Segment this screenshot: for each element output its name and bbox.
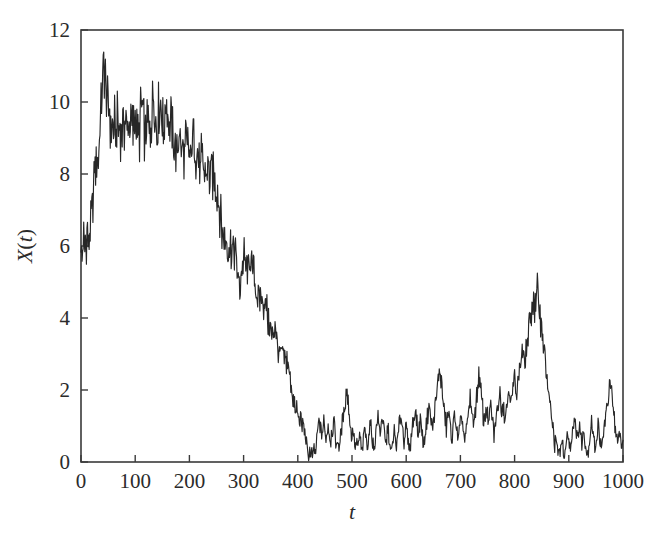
- x-tick-label: 700: [445, 469, 477, 493]
- x-tick-label: 900: [553, 469, 585, 493]
- x-tick-label: 300: [228, 469, 260, 493]
- y-axis-title: X(t): [12, 229, 37, 264]
- y-axis-tick-labels: 024681012: [49, 18, 71, 474]
- line-chart-svg: 01002003004005006007008009001000 0246810…: [0, 0, 666, 539]
- x-tick-label: 1000: [602, 469, 644, 493]
- x-tick-label: 800: [499, 469, 531, 493]
- plot-frame: [81, 30, 623, 462]
- x-axis-ticks: [81, 455, 623, 462]
- y-tick-label: 8: [60, 162, 71, 186]
- x-tick-label: 600: [390, 469, 422, 493]
- y-tick-label: 2: [60, 378, 71, 402]
- x-tick-label: 0: [76, 469, 87, 493]
- y-tick-label: 12: [49, 18, 70, 42]
- y-tick-label: 6: [60, 234, 71, 258]
- y-tick-label: 10: [49, 90, 70, 114]
- figure-container: 01002003004005006007008009001000 0246810…: [0, 0, 666, 539]
- y-tick-label: 4: [60, 306, 71, 330]
- x-axis-tick-labels: 01002003004005006007008009001000: [76, 469, 644, 493]
- svg-text:X(t): X(t): [12, 229, 37, 264]
- x-tick-label: 400: [282, 469, 314, 493]
- x-axis-title: t: [349, 499, 356, 524]
- x-tick-label: 500: [336, 469, 368, 493]
- data-series-line: [81, 52, 623, 461]
- x-tick-label: 200: [174, 469, 206, 493]
- x-tick-label: 100: [119, 469, 151, 493]
- y-tick-label: 0: [60, 450, 71, 474]
